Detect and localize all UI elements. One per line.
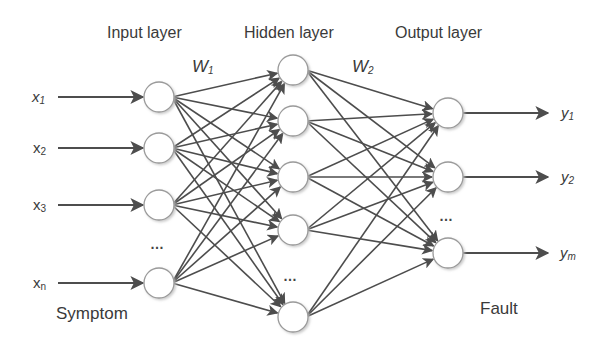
- hidden-node: [278, 162, 308, 192]
- weight-w2-sub: 2: [368, 65, 374, 76]
- symptom-caption: Symptom: [56, 305, 128, 323]
- hidden-ellipsis: …: [283, 271, 298, 281]
- edge: [306, 114, 432, 121]
- edge: [172, 205, 277, 227]
- input-label-x1: x1: [32, 88, 45, 106]
- network-graph: [0, 0, 605, 349]
- edge: [172, 283, 277, 313]
- x1-sub: 1: [40, 95, 46, 106]
- y2-sub: 2: [569, 175, 575, 186]
- edge: [172, 205, 281, 307]
- edge: [306, 230, 432, 251]
- input-arrows: [58, 97, 143, 283]
- weight-label-w2: W2: [352, 58, 374, 76]
- output-label-y1: y1: [561, 104, 574, 122]
- x2-base: x: [33, 139, 41, 156]
- input-layer-title: Input layer: [107, 24, 182, 42]
- edge: [172, 78, 279, 148]
- input-nodes: [144, 82, 174, 298]
- weight-w1-base: W: [192, 57, 208, 76]
- input-node: [144, 82, 174, 112]
- output-label-ym: ym: [560, 244, 576, 262]
- hidden-node: [278, 302, 308, 332]
- output-layer-title: Output layer: [395, 24, 482, 42]
- input-label-x3: x3: [33, 196, 46, 214]
- input-ellipsis: …: [150, 239, 165, 249]
- output-node: [433, 162, 463, 192]
- input-label-xn: xn: [33, 274, 46, 292]
- output-label-y2: y2: [561, 168, 574, 186]
- xn-base: x: [33, 274, 41, 291]
- hidden-layer-title: Hidden layer: [244, 24, 334, 42]
- edges-input-to-hidden: [172, 73, 285, 313]
- edge: [172, 73, 277, 97]
- ym-base: y: [560, 244, 568, 261]
- y2-base: y: [561, 168, 569, 185]
- input-node: [144, 268, 174, 298]
- y1-sub: 1: [569, 111, 575, 122]
- x3-base: x: [33, 196, 41, 213]
- neural-network-diagram: Input layer Hidden layer Output layer W1…: [0, 0, 605, 349]
- edge: [172, 97, 285, 303]
- weight-w2-base: W: [352, 57, 368, 76]
- hidden-nodes: [278, 55, 308, 332]
- x1-base: x: [32, 88, 40, 105]
- edges-hidden-to-output: [306, 70, 438, 317]
- output-node: [433, 238, 463, 268]
- x3-sub: 3: [41, 203, 47, 214]
- output-node: [433, 98, 463, 128]
- weight-w1-sub: 1: [208, 65, 214, 76]
- weight-label-w1: W1: [192, 58, 214, 76]
- x2-sub: 2: [41, 146, 47, 157]
- fault-caption: Fault: [480, 300, 518, 318]
- edge: [172, 129, 279, 205]
- edge: [306, 126, 438, 317]
- input-label-x2: x2: [33, 139, 46, 157]
- hidden-node: [278, 106, 308, 136]
- edge: [172, 124, 277, 148]
- input-node: [144, 133, 174, 163]
- output-nodes: [433, 98, 463, 268]
- input-node: [144, 190, 174, 220]
- y1-base: y: [561, 104, 569, 121]
- edge: [306, 188, 436, 317]
- output-ellipsis: …: [439, 211, 454, 221]
- hidden-node: [278, 55, 308, 85]
- hidden-node: [278, 215, 308, 245]
- ym-sub: m: [568, 251, 576, 262]
- xn-sub: n: [41, 281, 47, 292]
- output-arrows: [463, 113, 548, 253]
